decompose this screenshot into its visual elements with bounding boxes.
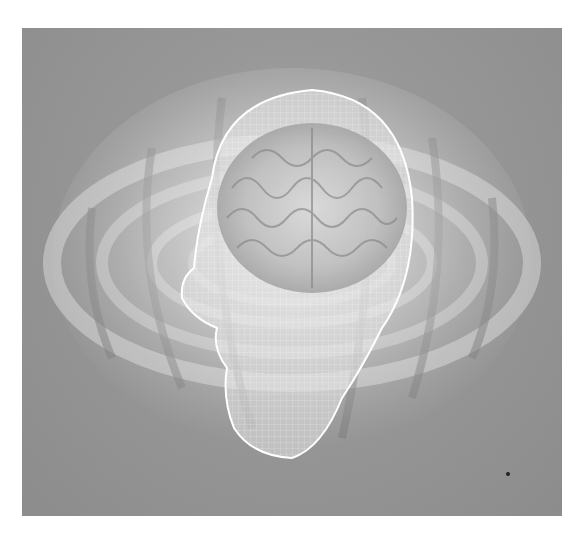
illustration-frame: [22, 28, 562, 516]
brain: [217, 123, 407, 293]
speck: [506, 472, 510, 476]
head-brain-render: [22, 28, 562, 516]
